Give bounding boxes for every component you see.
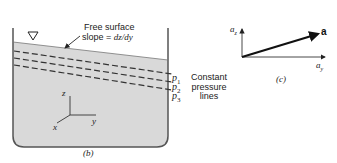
- annotation-leader-arrow: [65, 36, 80, 48]
- axis-label-z: z: [62, 88, 66, 98]
- vector-label-a: a: [321, 26, 327, 37]
- diagram-canvas: [0, 0, 337, 163]
- annotation-line1: Free surface: [82, 22, 135, 32]
- annotation-line2: slope = dz/dy: [82, 32, 135, 42]
- acceleration-vector: [242, 34, 318, 57]
- tank-panel-b: [13, 28, 172, 147]
- free-surface-annotation: Free surface slope = dz/dy: [82, 22, 135, 42]
- caption-b: (b): [83, 148, 94, 158]
- axis-label-x: x: [53, 122, 57, 132]
- axis-label-ay: ay: [316, 60, 323, 72]
- vector-panel-c: [242, 29, 325, 57]
- caption-c: (c): [276, 74, 286, 84]
- pressure-label-p3: p3: [172, 90, 181, 104]
- constant-pressure-legend: Constant pressure lines: [189, 73, 229, 102]
- axis-label-y: y: [92, 116, 96, 126]
- free-surface-symbol-icon: [28, 32, 38, 40]
- fluid-region: [13, 42, 168, 147]
- axis-label-az: az: [230, 24, 237, 36]
